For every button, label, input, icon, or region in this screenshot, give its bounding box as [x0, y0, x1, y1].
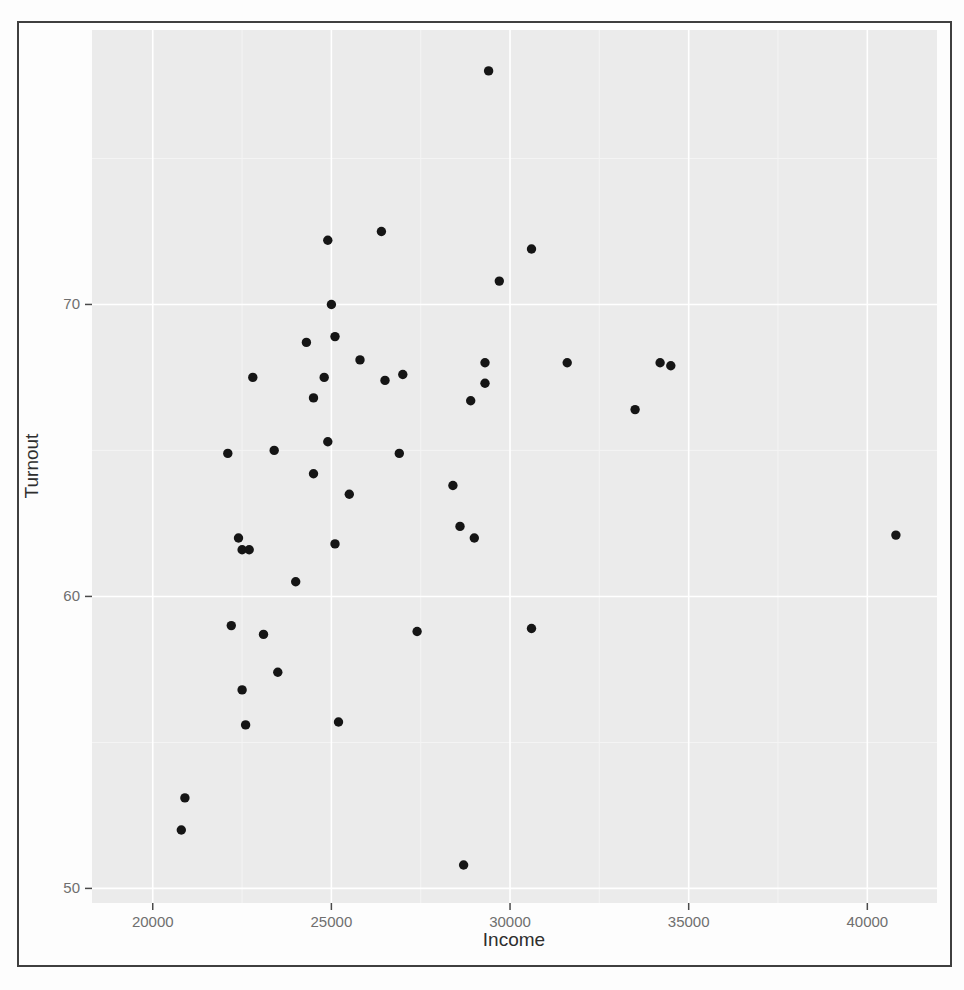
data-point	[455, 522, 464, 531]
data-point	[480, 379, 489, 388]
x-tick-label: 25000	[311, 913, 353, 930]
data-point	[380, 376, 389, 385]
data-point	[270, 446, 279, 455]
x-tick-label: 40000	[846, 913, 888, 930]
data-point	[180, 793, 189, 802]
data-point	[891, 530, 900, 539]
data-point	[563, 358, 572, 367]
data-point	[470, 533, 479, 542]
data-point	[320, 373, 329, 382]
data-point	[355, 355, 364, 364]
data-point	[398, 370, 407, 379]
data-point	[330, 332, 339, 341]
data-point	[655, 358, 664, 367]
data-point	[459, 860, 468, 869]
data-point	[323, 437, 332, 446]
data-point	[241, 720, 250, 729]
x-tick-label: 35000	[668, 913, 710, 930]
y-tick-label: 50	[63, 879, 80, 896]
data-point	[666, 361, 675, 370]
data-point	[248, 373, 257, 382]
data-point	[302, 338, 311, 347]
data-point	[273, 668, 282, 677]
data-point	[377, 227, 386, 236]
plot-panel	[92, 30, 937, 903]
data-point	[395, 449, 404, 458]
data-point	[309, 469, 318, 478]
data-point	[237, 685, 246, 694]
data-point	[527, 244, 536, 253]
y-axis-title: Turnout	[21, 433, 42, 498]
data-point	[245, 545, 254, 554]
x-tick-label: 30000	[489, 913, 531, 930]
data-point	[323, 236, 332, 245]
data-point	[484, 66, 493, 75]
data-point	[330, 539, 339, 548]
data-point	[448, 481, 457, 490]
data-point	[177, 825, 186, 834]
x-axis-title: Income	[483, 929, 545, 950]
data-point	[259, 630, 268, 639]
x-tick-label: 20000	[132, 913, 174, 930]
data-point	[234, 533, 243, 542]
data-point	[291, 577, 300, 586]
y-axis-tick-labels: 506070	[63, 295, 80, 896]
data-point	[466, 396, 475, 405]
y-tick-label: 70	[63, 295, 80, 312]
data-point	[345, 490, 354, 499]
scatter-plot: 2000025000300003500040000 506070 Income …	[0, 0, 964, 990]
data-point	[495, 276, 504, 285]
data-point	[527, 624, 536, 633]
data-point	[480, 358, 489, 367]
data-point	[334, 717, 343, 726]
x-axis-tick-labels: 2000025000300003500040000	[132, 913, 888, 930]
data-point	[630, 405, 639, 414]
data-point	[327, 300, 336, 309]
data-point	[223, 449, 232, 458]
y-tick-label: 60	[63, 587, 80, 604]
figure-page: 2000025000300003500040000 506070 Income …	[0, 0, 964, 990]
data-point	[412, 627, 421, 636]
data-point	[309, 393, 318, 402]
data-point	[227, 621, 236, 630]
